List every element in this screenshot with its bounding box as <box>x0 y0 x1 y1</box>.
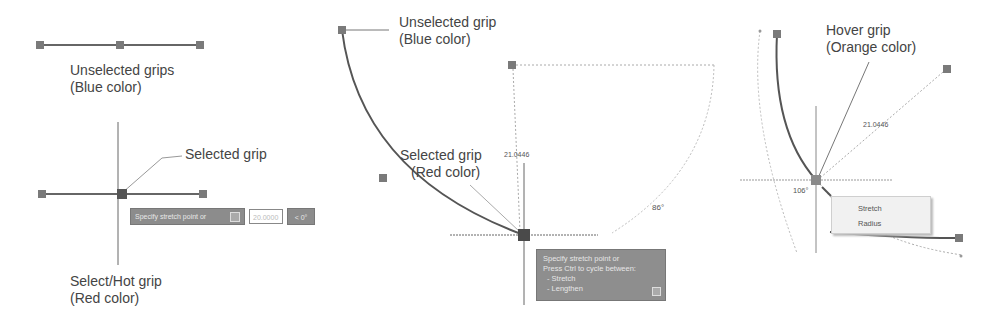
selected-grip-label: Selected grip <box>400 147 482 163</box>
menu-item-stretch[interactable]: Stretch <box>832 201 930 216</box>
dimension-length: 21.0446 <box>863 121 888 128</box>
unselected-line <box>36 41 204 49</box>
grip-arc-end-selected[interactable] <box>518 229 530 241</box>
grip-far[interactable] <box>943 65 951 73</box>
leader-hover <box>818 62 869 178</box>
grip-unselected-mid[interactable] <box>116 41 124 49</box>
unselected-grip-label: Unselected grip <box>399 14 496 30</box>
options-icon[interactable] <box>652 287 661 296</box>
options-icon[interactable] <box>230 212 240 222</box>
hover-grip-color: (Orange color) <box>826 39 916 55</box>
unselected-grips-label: Unselected grips <box>70 62 174 78</box>
stretch-prompt-text: Specify stretch point or <box>135 208 206 225</box>
tooltip-line: Press Ctrl to cycle between: <box>543 264 659 274</box>
grip-unselected-right[interactable] <box>196 41 204 49</box>
grip-context-menu: Stretch Radius <box>831 196 931 234</box>
grip-arc-mid[interactable] <box>379 174 387 182</box>
stretch-prompt: Specify stretch point or <box>130 208 245 225</box>
tooltip-line: Specify stretch point or <box>543 254 659 264</box>
unselected-grip-color: (Blue color) <box>399 31 471 47</box>
arc <box>776 34 816 180</box>
dimension-angle: 86° <box>652 203 664 212</box>
grip-center[interactable] <box>508 61 516 69</box>
grip-unselected-left[interactable] <box>36 41 44 49</box>
selected-grip-label: Selected grip <box>185 146 267 162</box>
grip-hot[interactable] <box>117 189 127 199</box>
unselected-grips-color: (Blue color) <box>70 79 142 95</box>
tooltip-line: - Stretch <box>543 274 659 284</box>
grip-arc-end[interactable] <box>955 234 963 242</box>
stretch-lengthen-tooltip: Specify stretch point or Press Ctrl to c… <box>536 249 666 301</box>
angle-field[interactable]: < 0° <box>287 208 315 225</box>
menu-item-radius[interactable]: Radius <box>832 216 930 231</box>
dynamic-input-tooltip: Specify stretch point or 20.0000 < 0° <box>130 208 315 225</box>
distance-input[interactable]: 20.0000 <box>249 209 283 224</box>
hot-grip-color: (Red color) <box>70 290 139 306</box>
arc <box>342 30 524 235</box>
dimension-angle: 106° <box>793 186 809 195</box>
grip-arc-start[interactable] <box>773 30 781 38</box>
leader-selected <box>470 185 520 232</box>
grip-left[interactable] <box>38 190 46 198</box>
hover-grip-label: Hover grip <box>826 22 891 38</box>
grip-arc-start[interactable] <box>338 26 346 34</box>
hot-line <box>38 122 207 265</box>
grip-right[interactable] <box>199 190 207 198</box>
selected-grip-color: (Red color) <box>411 164 480 180</box>
dimension-length: 21.0446 <box>504 151 529 158</box>
tooltip-line: - Lengthen <box>543 284 659 294</box>
hot-grip-label: Select/Hot grip <box>70 273 162 289</box>
grip-hover[interactable] <box>811 175 821 185</box>
leader-selected <box>122 158 162 193</box>
